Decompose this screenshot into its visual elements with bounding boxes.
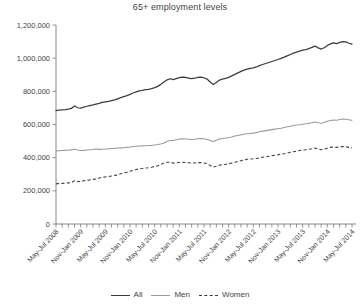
line-swatch-icon <box>111 295 130 296</box>
y-axis-tick-label: 1,000,000 <box>17 54 50 63</box>
y-axis: 0200,000400,000600,000800,0001,000,0001,… <box>17 21 56 229</box>
y-axis-tick-label: 0 <box>46 220 50 229</box>
x-axis: May-Jul 2008Nov-Jan 2009May-Jul 2009Nov-… <box>26 224 357 265</box>
legend-item-men: Men <box>151 291 190 299</box>
legend-label: Women <box>222 291 249 299</box>
chart-container: 65+ employment levels 0200,000400,000600… <box>0 0 360 305</box>
y-axis-tick-label: 400,000 <box>23 153 50 162</box>
y-axis-tick-label: 600,000 <box>23 120 50 129</box>
chart-legend: All Men Women <box>0 291 360 299</box>
y-axis-tick-label: 800,000 <box>23 87 50 96</box>
legend-label: Men <box>174 291 190 299</box>
chart-plot-area: 0200,000400,000600,000800,0001,000,0001,… <box>0 0 360 305</box>
series-line-women <box>56 147 352 184</box>
y-axis-tick-label: 200,000 <box>23 186 50 195</box>
legend-label: All <box>134 291 143 299</box>
series-lines <box>56 42 352 184</box>
legend-item-all: All <box>111 291 143 299</box>
series-line-men <box>56 119 352 151</box>
series-line-all <box>56 42 352 111</box>
dashed-line-swatch-icon <box>199 295 218 296</box>
y-axis-tick-label: 1,200,000 <box>17 21 50 30</box>
line-swatch-icon <box>151 295 170 296</box>
legend-item-women: Women <box>199 291 249 299</box>
